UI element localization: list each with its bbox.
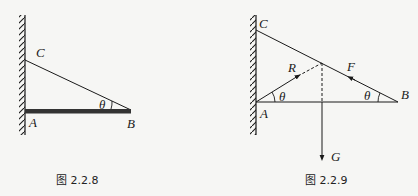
label-b: B xyxy=(401,87,409,102)
angle-arc-theta-a xyxy=(272,92,275,102)
label-theta: θ xyxy=(99,97,106,112)
rod-ab xyxy=(25,109,131,114)
force-f-arrow xyxy=(350,78,355,81)
force-r-extension xyxy=(298,63,322,76)
label-theta-b: θ xyxy=(364,88,371,103)
label-a: A xyxy=(259,106,268,121)
label-f: F xyxy=(346,59,356,74)
force-r-vector xyxy=(256,76,298,102)
caption-2-2-9: 图 2.2.9 xyxy=(305,174,348,187)
angle-arc-theta-b xyxy=(378,93,380,102)
cable-cb xyxy=(25,60,131,110)
label-g: G xyxy=(331,149,341,164)
physics-diagrams: C A B θ 图 2.2.8 C A B θ θ R F G 图 2.2.9 xyxy=(0,0,418,196)
label-b: B xyxy=(127,116,135,131)
angle-arc-theta xyxy=(111,101,112,109)
label-r: R xyxy=(287,60,296,75)
figure-2-2-9: C A B θ θ R F G 图 2.2.9 xyxy=(250,15,409,187)
label-c: C xyxy=(259,16,268,31)
label-theta-a: θ xyxy=(279,89,286,104)
wall xyxy=(19,15,25,135)
cable-cb xyxy=(256,30,398,102)
wall xyxy=(250,15,256,135)
figure-2-2-8: C A B θ 图 2.2.8 xyxy=(19,15,135,187)
label-c: C xyxy=(36,45,45,60)
label-a: A xyxy=(28,115,37,130)
caption-2-2-8: 图 2.2.8 xyxy=(56,174,99,187)
